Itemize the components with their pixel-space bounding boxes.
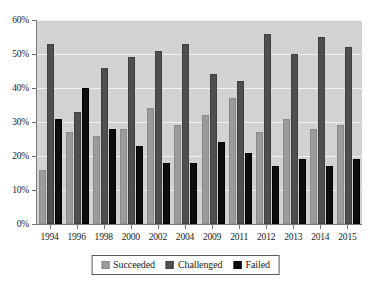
legend-swatch-failed-icon [234,261,242,269]
bar-challenged-2013 [291,54,298,224]
bar-group [254,20,281,224]
bar-succeeded-2011 [229,98,236,224]
x-tick-mark [185,225,186,229]
bar-failed-2013 [299,159,306,224]
bar-succeeded-2013 [283,119,290,224]
x-tick-mark [104,225,105,229]
x-tick-label: 1998 [90,232,117,243]
bar-failed-2004 [190,163,197,224]
bar-group [335,20,362,224]
bar-chart: 0%10%20%30%40%50%60% 1994199619982000200… [0,0,371,284]
bar-succeeded-1996 [66,132,73,224]
x-tick-mark [158,225,159,229]
bar-failed-2011 [245,153,252,224]
bar-group [37,20,64,224]
x-tick-mark [320,225,321,229]
bar-group [64,20,91,224]
legend-item-challenged[interactable]: Challenged [166,259,223,270]
x-axis: 1994199619982000200220042009201120122013… [36,225,361,247]
x-tick-group: 2000 [117,225,144,247]
x-tick-group: 2004 [171,225,198,247]
bar-failed-2000 [136,146,143,224]
legend-label: Failed [246,259,270,270]
bar-group [118,20,145,224]
bar-failed-2014 [326,166,333,224]
bar-challenged-2002 [155,51,162,224]
bar-failed-2009 [218,142,225,224]
x-tick-group: 2009 [198,225,225,247]
x-tick-group: 2011 [226,225,253,247]
x-tick-mark [77,225,78,229]
bar-challenged-2009 [210,74,217,224]
x-tick-label: 2014 [307,232,334,243]
chart-legend: SucceededChallengedFailed [91,255,280,275]
x-tick-mark [131,225,132,229]
x-tick-label: 1996 [63,232,90,243]
bar-challenged-2011 [237,81,244,224]
legend-item-failed[interactable]: Failed [234,259,270,270]
bar-group [145,20,172,224]
y-tick-label: 40% [12,83,29,93]
x-tick-group: 2012 [253,225,280,247]
x-tick-group: 2014 [307,225,334,247]
x-tick-label: 2000 [117,232,144,243]
bar-challenged-2000 [128,57,135,224]
bar-challenged-2015 [345,47,352,224]
x-tick-label: 2011 [226,232,253,243]
x-tick-group: 1994 [36,225,63,247]
x-tick-mark [239,225,240,229]
bar-group [172,20,199,224]
x-tick-mark [293,225,294,229]
x-tick-label: 2004 [171,232,198,243]
x-tick-label: 2002 [144,232,171,243]
bar-succeeded-2014 [310,129,317,224]
y-tick-label: 30% [12,117,29,127]
bar-challenged-1994 [47,44,54,224]
x-tick-mark [266,225,267,229]
bar-challenged-2004 [182,44,189,224]
bar-succeeded-1998 [93,136,100,224]
bar-succeeded-2015 [337,125,344,224]
x-tick-label: 1994 [36,232,63,243]
legend-label: Challenged [178,259,223,270]
bar-succeeded-2009 [202,115,209,224]
bar-challenged-2012 [264,34,271,224]
bar-failed-2015 [353,159,360,224]
y-tick-label: 20% [12,151,29,161]
x-tick-mark [50,225,51,229]
x-tick-group: 1996 [63,225,90,247]
y-tick-label: 60% [12,15,29,25]
bar-failed-1998 [109,129,116,224]
bar-succeeded-1994 [39,170,46,224]
legend-item-succeeded[interactable]: Succeeded [101,259,155,270]
plot-area [36,20,362,225]
bar-challenged-1996 [74,112,81,224]
legend-swatch-succeeded-icon [101,261,109,269]
y-tick-label: 10% [12,185,29,195]
x-tick-mark [347,225,348,229]
bar-group [227,20,254,224]
legend-swatch-challenged-icon [166,261,174,269]
bar-group [281,20,308,224]
x-tick-group: 1998 [90,225,117,247]
bars-layer [37,20,362,224]
bar-succeeded-2002 [147,108,154,224]
bar-challenged-2014 [318,37,325,224]
legend-label: Succeeded [113,259,155,270]
x-tick-mark [212,225,213,229]
bar-failed-1994 [55,119,62,224]
x-tick-label: 2012 [253,232,280,243]
bar-group [91,20,118,224]
x-tick-label: 2015 [334,232,361,243]
bar-failed-1996 [82,88,89,224]
y-tick-label: 50% [12,49,29,59]
bar-failed-2012 [272,166,279,224]
x-tick-group: 2013 [280,225,307,247]
x-tick-label: 2013 [280,232,307,243]
bar-succeeded-2012 [256,132,263,224]
y-axis: 0%10%20%30%40%50%60% [0,0,36,232]
x-tick-label: 2009 [198,232,225,243]
bar-succeeded-2004 [174,125,181,224]
x-tick-group: 2015 [334,225,361,247]
bar-succeeded-2000 [120,129,127,224]
